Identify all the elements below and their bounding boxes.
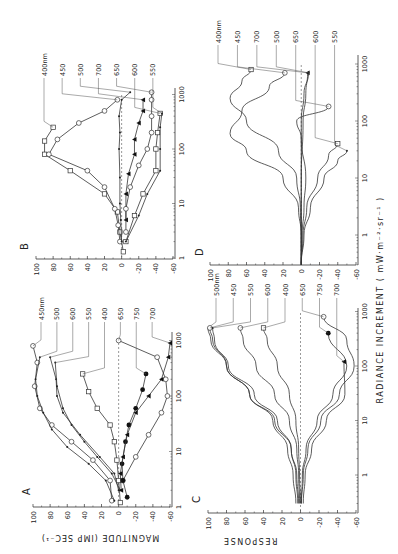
series-line-600 bbox=[240, 328, 299, 504]
series-label: 650 bbox=[292, 31, 300, 43]
series-label: 700 bbox=[149, 308, 157, 320]
series-label: 650 bbox=[299, 284, 307, 296]
radiance-tick-label: 10 bbox=[178, 199, 186, 207]
series-label: 700 bbox=[333, 284, 341, 296]
series-line-400nm bbox=[230, 70, 301, 265]
series-label: 550 bbox=[149, 64, 157, 76]
response-tick-label: 40 bbox=[260, 517, 268, 525]
leader-line bbox=[335, 45, 347, 151]
radiance-tick-label: 10 bbox=[361, 174, 369, 182]
leader-line bbox=[136, 322, 146, 374]
series-label: 700 bbox=[95, 64, 103, 76]
series-label: 400 bbox=[282, 284, 290, 296]
leader-line bbox=[119, 322, 121, 341]
series-line-450 bbox=[210, 328, 298, 504]
leader-line bbox=[240, 298, 267, 328]
x-axis-title-radiance: RADIANCE INCREMENT ( mW·m⁻²·sr⁻¹ ) bbox=[376, 196, 385, 403]
series-label: 650 bbox=[117, 308, 125, 320]
response-tick-label: -60 bbox=[353, 269, 361, 280]
radiance-tick-label: 1 bbox=[175, 505, 183, 509]
leader-line bbox=[117, 78, 152, 92]
series-label: 750 bbox=[133, 308, 141, 320]
series-label: 600 bbox=[264, 284, 272, 296]
response-tick-label: 100 bbox=[205, 517, 213, 529]
series-line-550 bbox=[213, 328, 299, 504]
panel-label: A bbox=[21, 488, 32, 495]
response-tick-label: -20 bbox=[316, 269, 324, 280]
panel-label: B bbox=[19, 243, 30, 250]
leader-line bbox=[257, 45, 308, 73]
radiance-tick-label: 1 bbox=[361, 233, 369, 237]
response-tick-label: -20 bbox=[132, 511, 140, 522]
response-tick-label: -40 bbox=[152, 263, 160, 274]
series-label: 600 bbox=[312, 31, 320, 43]
series-line-600 bbox=[126, 113, 160, 241]
series-line-700 bbox=[126, 100, 143, 220]
leader-line bbox=[33, 322, 41, 346]
series-line-650 bbox=[126, 92, 152, 232]
response-tick-label: -40 bbox=[334, 269, 342, 280]
series-line-450 bbox=[230, 73, 301, 265]
series-line-700 bbox=[303, 362, 345, 504]
radiance-tick-label: 1000 bbox=[178, 86, 186, 103]
response-tick-label: 40 bbox=[84, 263, 92, 271]
response-tick-label: 80 bbox=[225, 269, 233, 277]
response-tick-label: -20 bbox=[316, 517, 324, 528]
response-tick-label: 80 bbox=[50, 263, 58, 271]
response-tick-label: 40 bbox=[261, 269, 269, 277]
response-tick-label: 0 bbox=[118, 263, 126, 267]
leader-line bbox=[237, 45, 284, 73]
radiance-tick-label: 1000 bbox=[175, 332, 183, 349]
radiance-tick-label: 10 bbox=[361, 416, 369, 424]
series-label: 600 bbox=[69, 308, 77, 320]
series-label: 500nm bbox=[213, 273, 221, 296]
series-label: 500 bbox=[273, 31, 281, 43]
response-tick-label: 20 bbox=[279, 517, 287, 525]
figure: B100806040200-20-40-601101001000400nm450… bbox=[0, 0, 398, 554]
response-tick-label: 100 bbox=[30, 511, 38, 523]
leader-line bbox=[83, 322, 105, 374]
radiance-tick-label: 1000 bbox=[361, 56, 369, 73]
leader-line bbox=[302, 298, 323, 317]
leader-line bbox=[153, 78, 162, 113]
response-tick-label: -60 bbox=[167, 511, 175, 522]
series-label: 500 bbox=[53, 308, 61, 320]
series-label: 550 bbox=[85, 308, 93, 320]
series-label: 700 bbox=[253, 31, 261, 43]
leader-line bbox=[210, 298, 233, 328]
response-tick-label: 60 bbox=[67, 263, 75, 271]
y-axis-title-response: RESPONSE bbox=[223, 536, 278, 545]
leader-line bbox=[44, 78, 53, 127]
leader-line bbox=[40, 322, 57, 357]
response-tick-label: -40 bbox=[149, 511, 157, 522]
leader-line bbox=[264, 298, 286, 328]
panel-label: C bbox=[191, 496, 202, 503]
series-line-550 bbox=[301, 151, 347, 265]
response-tick-label: 100 bbox=[33, 263, 41, 275]
response-tick-label: 0 bbox=[298, 269, 306, 273]
response-tick-label: -60 bbox=[353, 517, 361, 528]
response-tick-label: 20 bbox=[101, 263, 109, 271]
response-tick-label: 80 bbox=[223, 517, 231, 525]
series-line-450 bbox=[49, 100, 120, 242]
leader-line bbox=[152, 322, 170, 343]
leader-line bbox=[80, 78, 130, 92]
panel-b: B100806040200-20-40-601101001000400nm450… bbox=[19, 53, 186, 275]
response-tick-label: 20 bbox=[280, 269, 288, 277]
leader-line bbox=[218, 45, 251, 70]
leader-line bbox=[50, 322, 73, 357]
series-label: 750 bbox=[316, 284, 324, 296]
panel-label: D bbox=[194, 248, 205, 256]
radiance-tick-label: 100 bbox=[178, 143, 186, 155]
series-label: 400nm bbox=[41, 53, 49, 76]
response-tick-label: 60 bbox=[64, 511, 72, 519]
panel-d: D100806040200-20-40-601101001000400nm450… bbox=[194, 20, 369, 281]
panel-a: A100806040200-20-40-601101001000450nm500… bbox=[21, 297, 183, 523]
response-tick-label: -40 bbox=[334, 517, 342, 528]
radiance-tick-label: 100 bbox=[175, 390, 183, 402]
series-line-600 bbox=[301, 144, 338, 265]
response-tick-label: -20 bbox=[135, 263, 143, 274]
radiance-tick-label: 10 bbox=[175, 447, 183, 455]
series-label: 600 bbox=[131, 64, 139, 76]
series-label: 500 bbox=[77, 64, 85, 76]
